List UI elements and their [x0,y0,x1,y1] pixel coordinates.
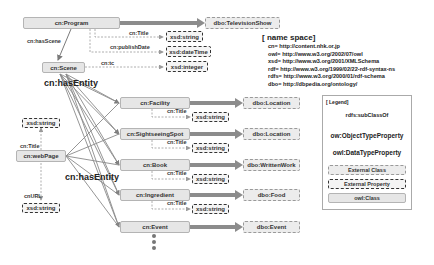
legend-owl-class: owl:Class [328,193,406,203]
legend-external-property: External Property [328,179,406,189]
label-webpage-title: cn:Title [20,143,39,149]
literal-program-title: xsd:string [166,31,203,42]
legend-title: [ Legend] [326,99,349,105]
literal-webpage-title: xsd:string [22,118,60,128]
class-webpage: cn:webPage [16,150,66,162]
label-tc: cn:tc [101,60,114,66]
external-class-event: dbo:Event [243,221,300,233]
legend-data-property-label: owl:DataTypeProperty [323,149,411,156]
label-spot-title: cn:Title [167,139,186,145]
label-has-entity-2: cn:hasEntity [65,172,119,182]
external-class-location-1: dbo:Location [243,97,300,109]
literal-spot-title: xsd:string [192,143,229,153]
literal-publish-date: xsd:dateTime [166,46,211,57]
namespace-line: xsd= http://www.w3.org/2001/XMLSchema [268,58,395,66]
namespace-line: dbo= http://dbpedia.org/ontology/ [268,81,395,89]
legend-object-property-label: ow:ObjectTypeProperty [323,132,411,139]
namespace-block: [ name space] cn= http://content.nhk.or.… [262,33,395,89]
external-class-written-work: dbo:WrittenWork [243,159,300,171]
literal-tc: xsd:integer [166,61,208,72]
class-event: cn:Event [120,221,190,233]
label-has-entity-1: cn:hasEntity [44,78,98,88]
label-facility-title: cn:Title [167,108,186,114]
legend-external-class: External Class [328,165,406,175]
class-program: cn:Program [23,17,120,29]
external-class-television-show: dbo:TelevisionShow [205,17,280,29]
label-has-scene: cn:hasScene [27,38,61,44]
label-program-title: cn:Title [129,30,148,36]
class-scene: cn:Scene [42,62,85,73]
more-entities-ellipsis [152,234,158,252]
label-webpage-url: cnURL [24,193,42,199]
literal-facility-title: xsd:string [192,112,229,122]
label-ingredient-title: cn:Title [167,200,186,206]
literal-ingredient-title: xsd:string [192,204,229,214]
namespace-line: rdfs= http://www.w3.org/2000/01/rdf-sche… [268,73,395,81]
namespace-line: cn= http://content.nhk.or.jp [268,43,395,51]
legend: [ Legend] rdfs:subClassOf ow:ObjectTypeP… [322,95,412,210]
literal-webpage-url: xsd:string [22,203,60,213]
namespace-line: rdf= http://www.w3.org/1999/02/22-rdf-sy… [268,66,395,74]
label-publish-date: cn:publishDate [110,44,150,50]
namespace-title: [ name space] [262,33,395,43]
external-class-location-2: dbo:Location [243,128,300,140]
legend-subclass-label: rdfs:subClassOf [323,112,411,118]
namespace-line: owl= http://www.w3.org/2002/07/owl [268,51,395,59]
label-book-title: cn:Title [167,170,186,176]
external-class-food: dbo:Food [243,189,300,201]
literal-book-title: xsd:string [192,174,229,184]
